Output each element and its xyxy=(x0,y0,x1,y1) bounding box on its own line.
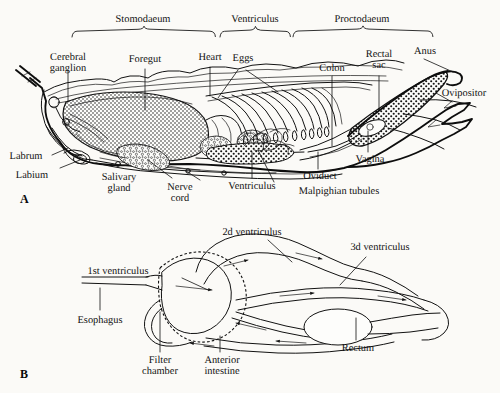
rectum-sac xyxy=(304,309,372,345)
label-chamber: chamber xyxy=(142,366,178,377)
label-sac: sac xyxy=(372,60,386,71)
label-intestine: intestine xyxy=(204,366,240,377)
flow-arrow-3 xyxy=(296,253,322,259)
label-gland: gland xyxy=(107,183,131,194)
insect-digestive-system-figure: Stomodaeum Ventriculus Proctodaeum xyxy=(0,0,500,393)
ovary-sheath xyxy=(206,82,372,96)
leader-eggs-1 xyxy=(218,70,238,98)
label-third-ventriculus: 3d ventriculus xyxy=(350,242,409,253)
region-label-proctodaeum: Proctodaeum xyxy=(335,14,390,25)
flow-arrow-4 xyxy=(280,293,314,296)
label-anterior: Anterior xyxy=(204,355,240,366)
label-salivary: Salivary xyxy=(102,172,137,183)
panel-label-a: A xyxy=(20,192,29,206)
anus xyxy=(446,71,462,85)
label-labrum: Labrum xyxy=(10,151,43,162)
flow-arrow-7 xyxy=(276,341,306,343)
label-foregut: Foregut xyxy=(129,54,161,65)
bracket-ventriculus xyxy=(220,26,290,37)
figure-page: Stomodaeum Ventriculus Proctodaeum xyxy=(0,0,500,393)
ventriculus-stipple xyxy=(206,143,294,165)
esophagus-flare-lower xyxy=(146,285,162,290)
rectum-outlet xyxy=(370,313,440,322)
panel-a-brackets xyxy=(72,26,433,37)
panel-a-drawing xyxy=(16,60,476,179)
label-ventriculus-bottom: Ventriculus xyxy=(228,181,275,192)
label-anus: Anus xyxy=(414,46,436,57)
label-first-ventriculus: 1st ventriculus xyxy=(88,266,149,277)
third-ventriculus-bend xyxy=(422,300,449,340)
label-vagina: Vagina xyxy=(356,154,385,165)
ovary-sheath-inner xyxy=(208,87,370,101)
label-colon: Colon xyxy=(319,63,345,74)
panel-label-b: B xyxy=(20,367,28,381)
label-labium: Labium xyxy=(16,170,48,181)
leader-anus xyxy=(424,59,453,72)
label-malpighian-tubules: Malpighian tubules xyxy=(299,186,380,197)
region-label-stomodaeum: Stomodaeum xyxy=(116,14,171,25)
esophagus-lower xyxy=(82,283,146,285)
label-rectum: Rectum xyxy=(342,343,374,354)
panel-b-labels: 2d ventriculus 3d ventriculus 1st ventri… xyxy=(20,227,410,381)
flow-arrow-2 xyxy=(224,260,248,266)
label-oviduct: Oviduct xyxy=(303,171,337,182)
flow-arrow-8 xyxy=(190,343,214,346)
region-label-ventriculus: Ventriculus xyxy=(231,14,278,25)
bracket-proctodaeum xyxy=(293,26,433,37)
label-heart: Heart xyxy=(198,52,221,63)
label-eggs: Eggs xyxy=(233,53,254,64)
filter-chamber-envelope xyxy=(159,252,247,342)
second-ventriculus-lower xyxy=(204,253,362,284)
eggs-ovarioles xyxy=(212,88,342,146)
label-ganglion: ganglion xyxy=(50,63,87,74)
flow-arrow-5 xyxy=(378,296,406,300)
panel-a-region-labels: Stomodaeum Ventriculus Proctodaeum xyxy=(116,14,390,25)
label-filter: Filter xyxy=(149,355,172,366)
label-nerve: Nerve xyxy=(167,182,193,193)
leader-second-ventriculus xyxy=(268,240,292,262)
label-cerebral: Cerebral xyxy=(50,52,86,63)
label-ovipositor: Ovipositor xyxy=(442,88,487,99)
label-rectal: Rectal xyxy=(366,49,393,60)
filter-chamber-lobe-inner xyxy=(152,308,173,343)
rectum-outlet-lower xyxy=(368,328,438,334)
second-ventriculus-return-lower xyxy=(362,281,424,309)
label-cord: cord xyxy=(171,193,190,204)
second-ventriculus-upper xyxy=(196,234,356,272)
label-esophagus: Esophagus xyxy=(77,315,122,326)
bracket-stomodaeum xyxy=(72,26,215,37)
leader-labium xyxy=(60,160,80,168)
label-second-ventriculus: 2d ventriculus xyxy=(222,227,281,238)
